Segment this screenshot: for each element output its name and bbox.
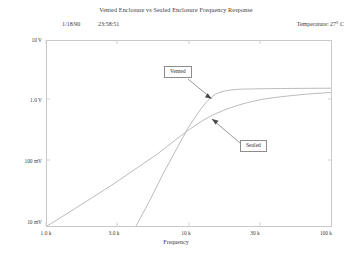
curve-sealed bbox=[47, 93, 331, 227]
callout-sealed[interactable]: Sealed bbox=[240, 140, 267, 152]
frequency-response-plot-window: Vented Enclosure vs Sealed Enclosure Fre… bbox=[0, 0, 352, 260]
chart-curves-overlay bbox=[0, 0, 352, 260]
callout-vented[interactable]: Vented bbox=[164, 66, 192, 78]
curve-vented bbox=[136, 88, 331, 226]
sealed-leader bbox=[213, 120, 240, 143]
